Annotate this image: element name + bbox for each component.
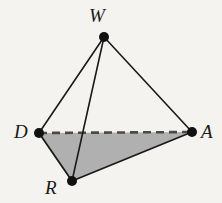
vertex-label-a: A — [201, 122, 213, 141]
vertex-dot-a — [187, 127, 197, 137]
geometry-figure: W D A R — [0, 0, 222, 203]
edge-w-d — [39, 37, 104, 133]
vertex-dot-d — [34, 128, 44, 138]
vertex-dot-r — [67, 176, 77, 186]
tetrahedron-diagram — [0, 0, 222, 203]
vertex-label-r: R — [45, 178, 57, 197]
shaded-face-dra — [39, 132, 192, 181]
vertex-label-w: W — [89, 6, 105, 25]
edge-w-a — [104, 37, 192, 132]
vertex-dot-w — [99, 32, 109, 42]
vertex-label-d: D — [14, 122, 28, 141]
